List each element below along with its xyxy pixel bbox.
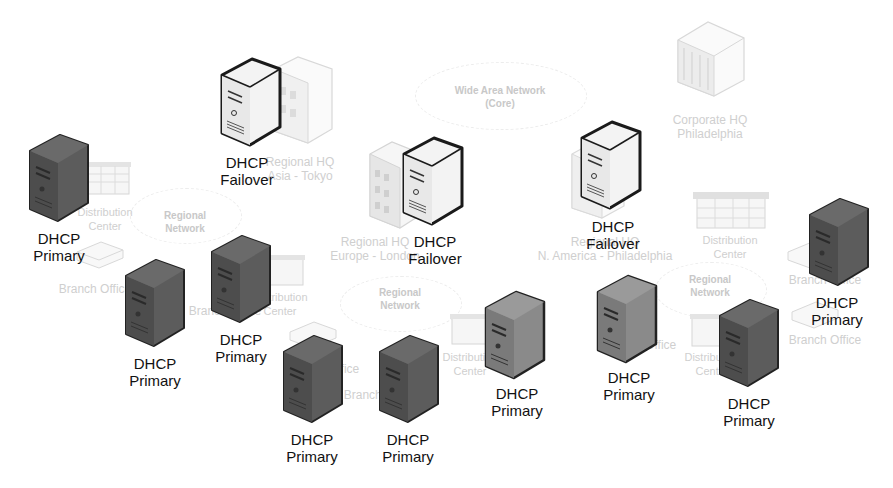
cloud-label-line2: Network	[340, 299, 460, 312]
regional-network-label-right: Regional Network	[655, 273, 765, 299]
server-label: DHCP Primary	[714, 395, 784, 429]
server-label-line2: Primary	[120, 372, 190, 389]
site-label-line1: Distribution	[690, 233, 770, 247]
cloud-label-line1: Regional	[655, 273, 765, 286]
corporate-hq-label: Corporate HQ Philadelphia	[650, 113, 770, 141]
server-label-line1: DHCP	[714, 395, 784, 412]
server-label-line2: Primary	[206, 348, 276, 365]
server-label: DHCP Failover	[400, 233, 470, 267]
server-label-line1: DHCP	[482, 385, 552, 402]
primary-server-icon	[806, 197, 872, 287]
regional-network-label-center: Regional Network	[340, 286, 460, 312]
primary-server-icon	[26, 133, 92, 223]
server-label: DHCP Failover	[212, 154, 282, 188]
server-label-line2: Primary	[482, 402, 552, 419]
server-label-line2: Primary	[24, 247, 94, 264]
server-label-line2: Primary	[802, 311, 872, 328]
primary-server-icon	[122, 258, 188, 348]
server-label-line1: DHCP	[277, 431, 347, 448]
failover-server-icon	[578, 120, 644, 210]
site-label-line2: Philadelphia	[650, 127, 770, 141]
server-label-line1: DHCP	[120, 355, 190, 372]
server-label: DHCP Primary	[373, 431, 443, 465]
server-label-line1: DHCP	[206, 331, 276, 348]
wan-label-line2: (Core)	[415, 97, 585, 110]
server-label: DHCP Primary	[277, 431, 347, 465]
distribution-center-icon	[693, 190, 769, 230]
server-label-line1: DHCP	[594, 369, 664, 386]
server-label-line2: Failover	[578, 235, 648, 252]
server-label-line1: DHCP	[24, 230, 94, 247]
server-label: DHCP Primary	[482, 385, 552, 419]
failover-server-icon	[400, 136, 466, 226]
primary-server-icon	[482, 290, 548, 380]
primary-server-icon	[208, 234, 274, 324]
wan-cloud-label: Wide Area Network (Core)	[415, 84, 585, 110]
server-label: DHCP Primary	[120, 355, 190, 389]
server-label-line1: DHCP	[373, 431, 443, 448]
server-label-line2: Primary	[594, 386, 664, 403]
server-label: DHCP Primary	[206, 331, 276, 365]
cloud-label-line1: Regional	[340, 286, 460, 299]
site-label-line1: Corporate HQ	[650, 113, 770, 127]
server-label: DHCP Failover	[578, 218, 648, 252]
server-label: DHCP Primary	[802, 294, 872, 328]
server-label-line2: Failover	[400, 250, 470, 267]
server-label: DHCP Primary	[24, 230, 94, 264]
primary-server-icon	[594, 274, 660, 364]
server-label-line1: DHCP	[400, 233, 470, 250]
site-label-line2: Center	[690, 247, 770, 261]
server-label-line1: DHCP	[578, 218, 648, 235]
branch-office-label: Branch Office	[770, 333, 880, 347]
primary-server-icon	[376, 334, 442, 424]
server-label-line2: Failover	[212, 171, 282, 188]
server-label-line2: Primary	[714, 412, 784, 429]
server-label-line1: DHCP	[212, 154, 282, 171]
wan-label-line1: Wide Area Network	[415, 84, 585, 97]
server-label: DHCP Primary	[594, 369, 664, 403]
failover-server-icon	[218, 57, 284, 147]
corporate-hq-building-icon	[670, 18, 750, 98]
distribution-center-label: Distribution Center	[690, 233, 770, 261]
primary-server-icon	[280, 334, 346, 424]
server-label-line1: DHCP	[802, 294, 872, 311]
primary-server-icon	[716, 298, 782, 388]
server-label-line2: Primary	[373, 448, 443, 465]
server-label-line2: Primary	[277, 448, 347, 465]
